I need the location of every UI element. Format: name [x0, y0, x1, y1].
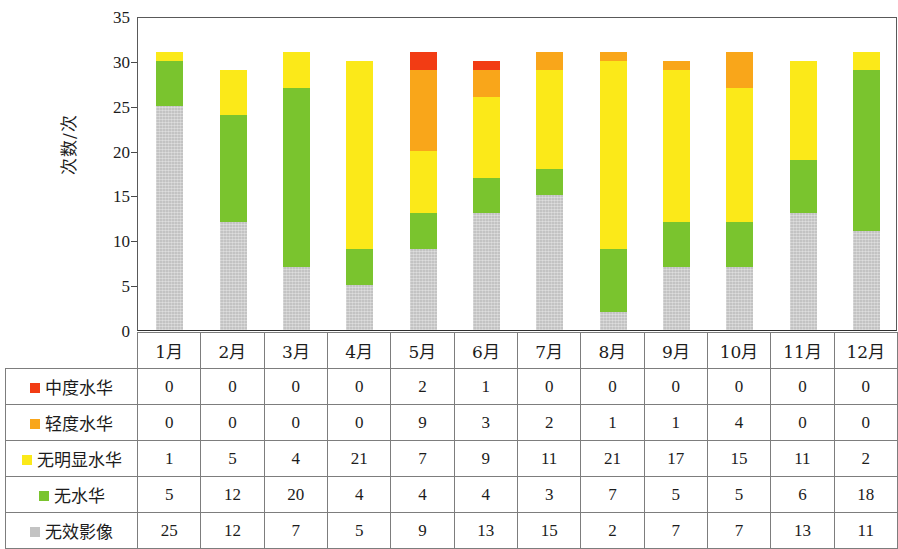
- table-header-row: 1月2月3月4月5月6月7月8月9月10月11月12月: [6, 333, 898, 369]
- table-column-header: 7月: [517, 333, 580, 369]
- y-tick-label: 20: [92, 143, 130, 160]
- table-cell: 4: [327, 477, 390, 513]
- table-cell: 0: [834, 405, 897, 441]
- table-row-label: 轻度水华: [6, 405, 138, 441]
- table-cell: 0: [201, 369, 264, 405]
- table-cell: 2: [391, 369, 454, 405]
- table-cell: 4: [707, 405, 770, 441]
- table-cell: 1: [138, 441, 201, 477]
- table-cell: 2: [581, 513, 644, 549]
- table-cell: 3: [454, 405, 517, 441]
- table-cell: 0: [644, 369, 707, 405]
- table-cell: 15: [517, 513, 580, 549]
- bar-segment: [853, 52, 880, 70]
- table-row: 轻度水华000093211400: [6, 405, 898, 441]
- data-table-wrapper: 1月2月3月4月5月6月7月8月9月10月11月12月 中度水华00002100…: [5, 332, 897, 547]
- table-column-header: 3月: [264, 333, 327, 369]
- table-cell: 11: [771, 441, 834, 477]
- legend-label: 无水华: [54, 486, 105, 506]
- table-cell: 7: [707, 513, 770, 549]
- bar-segment: [283, 52, 310, 88]
- bar-segment: [790, 213, 817, 330]
- table-cell: 25: [138, 513, 201, 549]
- table-cell: 4: [264, 441, 327, 477]
- bar-segment: [726, 88, 753, 223]
- y-axis-title: 次数/次: [55, 75, 80, 215]
- table-cell: 0: [771, 369, 834, 405]
- bar-segment: [853, 70, 880, 231]
- bar-column: [663, 61, 690, 330]
- bar-segment: [156, 106, 183, 330]
- table-cell: 3: [517, 477, 580, 513]
- legend-label: 中度水华: [45, 378, 113, 398]
- bar-segment: [410, 249, 437, 330]
- table-cell: 1: [581, 405, 644, 441]
- table-cell: 0: [264, 369, 327, 405]
- y-tick-label: 25: [92, 98, 130, 115]
- bar-column: [220, 70, 247, 330]
- table-cell: 4: [454, 477, 517, 513]
- table-cell: 5: [644, 477, 707, 513]
- bar-column: [790, 61, 817, 330]
- table-cell: 7: [644, 513, 707, 549]
- legend-swatch-icon: [30, 419, 40, 429]
- bar-segment: [156, 52, 183, 61]
- table-cell: 5: [138, 477, 201, 513]
- table-cell: 21: [581, 441, 644, 477]
- table-cell: 0: [707, 369, 770, 405]
- bar-segment: [473, 61, 500, 70]
- bar-segment: [726, 222, 753, 267]
- data-table: 1月2月3月4月5月6月7月8月9月10月11月12月 中度水华00002100…: [5, 332, 898, 549]
- bar-segment: [536, 195, 563, 330]
- table-cell: 1: [454, 369, 517, 405]
- table-column-header: 6月: [454, 333, 517, 369]
- table-cell: 18: [834, 477, 897, 513]
- table-cell: 15: [707, 441, 770, 477]
- legend-swatch-icon: [30, 527, 40, 537]
- table-cell: 4: [391, 477, 454, 513]
- table-column-header: 11月: [771, 333, 834, 369]
- bar-segment: [790, 61, 817, 160]
- bar-segment: [220, 70, 247, 115]
- bar-segment: [346, 61, 373, 249]
- bar-segment: [600, 249, 627, 312]
- table-cell: 1: [644, 405, 707, 441]
- bar-segment: [663, 267, 690, 330]
- table-cell: 7: [264, 513, 327, 549]
- bar-segment: [473, 178, 500, 214]
- legend-swatch-icon: [22, 455, 32, 465]
- bar-column: [410, 52, 437, 330]
- bar-segment: [473, 213, 500, 330]
- bar-column: [536, 52, 563, 330]
- table-cell: 6: [771, 477, 834, 513]
- table-cell: 0: [771, 405, 834, 441]
- y-tick-label: 15: [92, 188, 130, 205]
- table-cell: 0: [138, 369, 201, 405]
- table-cell: 0: [327, 405, 390, 441]
- table-cell: 7: [581, 477, 644, 513]
- table-row: 无明显水华154217911211715112: [6, 441, 898, 477]
- bar-segment: [346, 285, 373, 330]
- bar-segment: [600, 312, 627, 330]
- table-cell: 9: [391, 513, 454, 549]
- table-row-label: 中度水华: [6, 369, 138, 405]
- table-cell: 0: [138, 405, 201, 441]
- table-cell: 9: [391, 405, 454, 441]
- bar-segment: [410, 52, 437, 70]
- legend-swatch-icon: [30, 383, 40, 393]
- table-cell: 2: [834, 441, 897, 477]
- table-cell: 0: [581, 369, 644, 405]
- bar-segment: [663, 222, 690, 267]
- bar-column: [473, 61, 500, 330]
- bar-column: [853, 52, 880, 330]
- table-column-header: 2月: [201, 333, 264, 369]
- table-cell: 20: [264, 477, 327, 513]
- table-corner-cell: [6, 333, 138, 369]
- table-column-header: 8月: [581, 333, 644, 369]
- table-row: 中度水华000021000000: [6, 369, 898, 405]
- bar-segment: [346, 249, 373, 285]
- bar-segment: [536, 169, 563, 196]
- table-row: 无效影像251275913152771311: [6, 513, 898, 549]
- bar-segment: [220, 115, 247, 223]
- bar-segment: [600, 52, 627, 61]
